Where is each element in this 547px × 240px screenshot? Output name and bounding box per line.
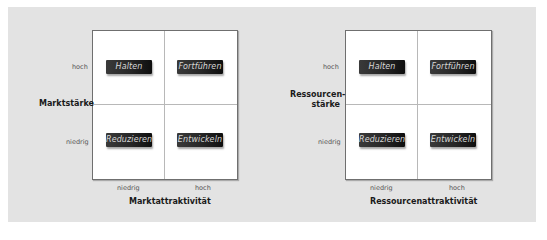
quadrant-reduzieren: Reduzieren	[359, 133, 405, 147]
y-axis-label-line1: Ressourcen-	[290, 90, 340, 100]
x-tick-low: niedrig	[117, 184, 140, 192]
x-tick-high: hoch	[195, 184, 211, 192]
matrix-grid	[345, 30, 492, 180]
y-tick-high: hoch	[72, 63, 88, 71]
y-tick-low: niedrig	[66, 138, 89, 146]
horizontal-divider	[93, 104, 237, 105]
vertical-divider	[417, 31, 418, 179]
horizontal-divider	[346, 104, 491, 105]
x-tick-low: niedrig	[370, 184, 393, 192]
quadrant-entwickeln: Entwickeln	[177, 133, 223, 147]
x-tick-high: hoch	[449, 184, 465, 192]
y-axis-label-line2: stärke	[290, 100, 340, 110]
quadrant-halten: Halten	[359, 60, 405, 74]
quadrant-fortfuehren: Fortführen	[177, 60, 223, 74]
vertical-divider	[164, 31, 165, 179]
x-axis-label: Marktattraktivität	[129, 197, 211, 207]
y-tick-high: hoch	[323, 63, 339, 71]
quadrant-halten: Halten	[106, 60, 152, 74]
y-axis-label: Ressourcen- stärke	[290, 90, 340, 110]
x-axis-label: Ressourcenattraktivität	[370, 197, 477, 207]
quadrant-entwickeln: Entwickeln	[430, 133, 476, 147]
y-tick-low: niedrig	[318, 138, 341, 146]
quadrant-reduzieren: Reduzieren	[106, 133, 152, 147]
quadrant-fortfuehren: Fortführen	[430, 60, 476, 74]
y-axis-label: Marktstärke	[39, 99, 94, 109]
matrix-grid	[92, 30, 238, 180]
